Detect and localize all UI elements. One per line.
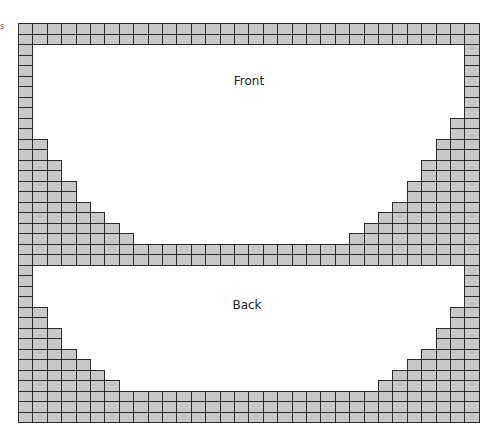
grid-cell — [421, 34, 436, 46]
grid-cell — [450, 34, 465, 46]
grid-cell — [76, 34, 91, 46]
grid-cell — [162, 34, 177, 46]
grid-cell — [349, 254, 364, 266]
grid-cell — [133, 34, 148, 46]
grid-cell — [306, 254, 321, 266]
grid-cell — [61, 254, 76, 266]
grid-cell — [277, 412, 292, 424]
stray-text-fragment: s — [0, 22, 4, 31]
grid-cell — [220, 412, 235, 424]
grid-cell — [320, 412, 335, 424]
grid-cell — [292, 254, 307, 266]
grid-cell — [119, 254, 134, 266]
grid-cell — [364, 34, 379, 46]
grid-cell — [335, 254, 350, 266]
grid-cell — [320, 34, 335, 46]
grid-cell — [378, 412, 393, 424]
grid-cell — [277, 254, 292, 266]
grid-cell — [364, 254, 379, 266]
grid-cell — [205, 34, 220, 46]
front-label: Front — [234, 74, 264, 88]
grid-cell — [421, 412, 436, 424]
grid-cell — [392, 34, 407, 46]
grid-cell — [162, 254, 177, 266]
grid-cell — [407, 412, 422, 424]
grid-cell — [234, 34, 249, 46]
grid-cell — [176, 34, 191, 46]
grid-cell — [133, 254, 148, 266]
grid-cell — [61, 34, 76, 46]
grid-cell — [61, 412, 76, 424]
grid-cell — [378, 34, 393, 46]
grid-cell — [90, 254, 105, 266]
grid-cell — [220, 34, 235, 46]
grid-cell — [76, 254, 91, 266]
grid-cell — [349, 412, 364, 424]
grid-cell — [205, 412, 220, 424]
grid-cell — [148, 34, 163, 46]
grid-cell — [263, 412, 278, 424]
grid-cell — [205, 254, 220, 266]
grid-cell — [248, 412, 263, 424]
grid-cell — [407, 34, 422, 46]
grid-cell — [191, 254, 206, 266]
grid-cell — [248, 254, 263, 266]
grid-cell — [176, 254, 191, 266]
grid-cell — [32, 254, 47, 266]
grid-cell — [306, 412, 321, 424]
grid-cell — [18, 412, 33, 424]
grid-cell — [90, 412, 105, 424]
grid-cell — [421, 254, 436, 266]
grid-cell — [191, 34, 206, 46]
grid-cell — [119, 34, 134, 46]
grid-cell — [104, 34, 119, 46]
grid-cell — [349, 34, 364, 46]
grid-cell — [378, 254, 393, 266]
grid-cell — [464, 412, 479, 424]
grid-cell — [263, 34, 278, 46]
grid-cell — [392, 254, 407, 266]
grid-cell — [176, 412, 191, 424]
grid-cell — [450, 254, 465, 266]
grid-cell — [162, 412, 177, 424]
grid-cell — [47, 412, 62, 424]
grid-cell — [450, 412, 465, 424]
grid-cell — [436, 412, 451, 424]
grid-cell — [148, 254, 163, 266]
grid-cell — [234, 412, 249, 424]
grid-cell — [335, 34, 350, 46]
grid-cell — [306, 34, 321, 46]
grid-cell — [47, 254, 62, 266]
grid-cell — [407, 254, 422, 266]
grid-cell — [436, 34, 451, 46]
grid-cell — [234, 254, 249, 266]
grid-cell — [248, 34, 263, 46]
grid-cell — [104, 254, 119, 266]
grid-cell — [32, 34, 47, 46]
grid-cell — [104, 412, 119, 424]
grid-cell — [320, 254, 335, 266]
grid-cell — [335, 412, 350, 424]
grid-cell — [148, 412, 163, 424]
grid-cell — [32, 412, 47, 424]
grid-cell — [277, 34, 292, 46]
grid-cell — [292, 34, 307, 46]
grid-cell — [191, 412, 206, 424]
grid-cell — [220, 254, 235, 266]
grid-cell — [364, 412, 379, 424]
grid-cell — [90, 34, 105, 46]
grid-cell — [76, 412, 91, 424]
grid-cell — [119, 412, 134, 424]
grid-cell — [436, 254, 451, 266]
grid-cell — [392, 412, 407, 424]
grid-cell — [263, 254, 278, 266]
grid-cell — [47, 34, 62, 46]
back-label: Back — [232, 298, 261, 312]
grid-cell — [133, 412, 148, 424]
grid-cell — [292, 412, 307, 424]
